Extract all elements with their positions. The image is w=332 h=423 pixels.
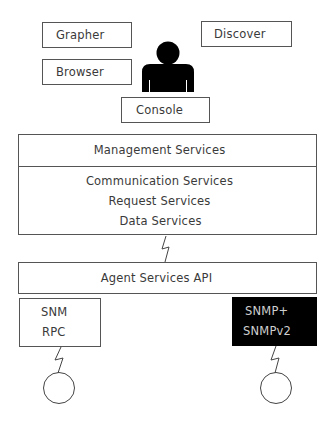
right-device-node-icon xyxy=(261,373,292,404)
lightning-link-icon xyxy=(55,347,63,373)
lightning-link-icon xyxy=(271,346,279,373)
left-device-node-icon xyxy=(44,373,75,404)
connectors xyxy=(0,0,332,423)
lightning-link-icon xyxy=(162,236,169,262)
